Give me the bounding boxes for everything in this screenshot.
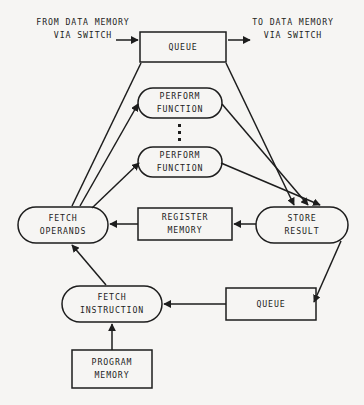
queue-top-shape bbox=[140, 32, 226, 62]
store-result-shape bbox=[256, 207, 348, 243]
edge-store-result-to-queue-bottom bbox=[314, 241, 341, 302]
edge-fetch-operands-to-queue-top bbox=[72, 63, 141, 206]
edge-perform-1-to-store-result bbox=[222, 104, 308, 205]
fetch-instruction-shape bbox=[62, 286, 162, 322]
edge-perform-2-to-store-result bbox=[221, 163, 320, 205]
edge-queue-top-to-store-result bbox=[226, 63, 294, 205]
register-memory-shape bbox=[138, 208, 232, 240]
output-destination-label: TO DATA MEMORY VIA SWITCH bbox=[232, 16, 354, 42]
queue-bottom-shape bbox=[226, 288, 316, 320]
ellipsis-icon bbox=[178, 124, 181, 141]
program-memory-shape bbox=[72, 350, 152, 388]
perform-function-1-shape bbox=[138, 88, 222, 118]
edge-fetch-instruction-to-fetch-operands bbox=[72, 245, 106, 285]
input-source-label: FROM DATA MEMORY VIA SWITCH bbox=[18, 16, 148, 42]
fetch-operands-shape bbox=[18, 207, 108, 243]
edge-fetch-operands-to-perform-2 bbox=[92, 163, 139, 208]
diagram-canvas bbox=[0, 0, 364, 405]
perform-function-2-shape bbox=[138, 147, 222, 177]
block-diagram: FROM DATA MEMORY VIA SWITCH TO DATA MEMO… bbox=[0, 0, 364, 405]
